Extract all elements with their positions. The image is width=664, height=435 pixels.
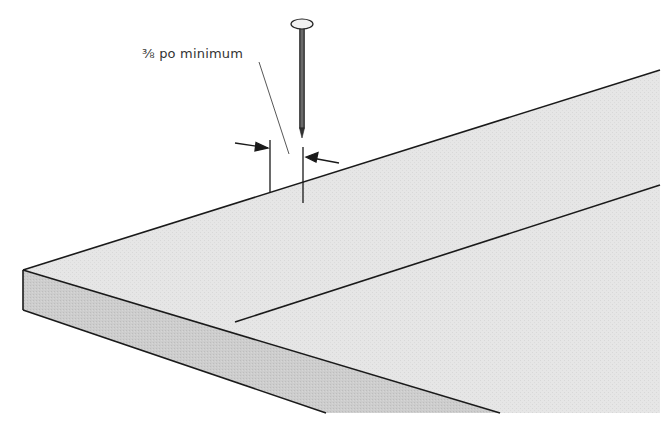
nail-icon [291,19,313,138]
left-arrow-head [255,143,268,152]
diagram: ⅜ po minimum [0,0,664,435]
board-top-surface [23,70,660,413]
illustration-canvas [0,0,664,435]
right-arrow-head [306,153,318,163]
nail-point [300,128,305,138]
nail-head [291,19,313,29]
clearance-label: ⅜ po minimum [142,46,243,61]
label-leader-line [259,62,289,154]
nail-shank [300,28,305,128]
